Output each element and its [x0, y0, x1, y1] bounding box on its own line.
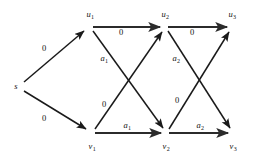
edge-label-u2-u3: 0 — [190, 28, 194, 37]
node-label-u2: u2 — [161, 10, 168, 19]
edge-label-v1-v2: a1 — [123, 121, 130, 130]
edge-label-u1-v2: a1 — [100, 54, 107, 63]
flow-network-diagram: su1u2u3v1v2v3 000a10a10a20a2 — [0, 0, 253, 160]
edge-label-subscript-v1-v2: 1 — [128, 125, 131, 131]
node-label-subscript-v1: 1 — [93, 146, 96, 152]
edge-label-s-u1: 0 — [42, 44, 46, 53]
edge-label-subscript-u1-v2: 1 — [105, 58, 108, 64]
edge-label-v2-v3: a2 — [196, 121, 203, 130]
node-label-subscript-u1: 1 — [91, 14, 94, 20]
edge-label-u1-u2: 0 — [119, 28, 123, 37]
edge-group-source — [24, 31, 86, 129]
edge-label-v1-u2: 0 — [102, 100, 106, 109]
edge-label-u2-v3: a2 — [172, 54, 179, 63]
edge-group-stage-1 — [93, 27, 163, 133]
node-label-v3: v3 — [230, 142, 237, 151]
node-label-subscript-v3: 3 — [234, 146, 237, 152]
node-label-v1: v1 — [89, 142, 96, 151]
node-label-u1: u1 — [86, 10, 93, 19]
node-label-subscript-u3: 3 — [233, 14, 236, 20]
node-label-u3: u3 — [228, 10, 235, 19]
edge-label-s-v1: 0 — [42, 114, 46, 123]
node-label-subscript-v2: 2 — [167, 146, 170, 152]
node-label-s: s — [14, 82, 17, 91]
edge-label-subscript-u2-v3: 2 — [177, 58, 180, 64]
edge-label-subscript-v2-v3: 2 — [201, 125, 204, 131]
graph-canvas — [0, 0, 253, 160]
edge-group-stage-2 — [168, 27, 230, 133]
node-label-subscript-u2: 2 — [166, 14, 169, 20]
edge-label-v2-u3: 0 — [175, 96, 179, 105]
node-label-v2: v2 — [163, 142, 170, 151]
edge-s-v1 — [24, 91, 86, 129]
edge-s-u1 — [24, 31, 84, 82]
